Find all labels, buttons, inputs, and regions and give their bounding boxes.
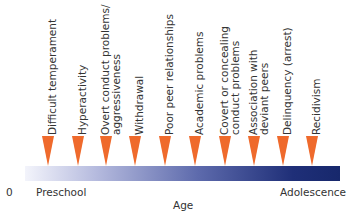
axis-origin-label: 0 [6,186,13,198]
event-label: Recidivism [311,79,322,135]
event-label: Difficult temperament [47,19,58,135]
event-label: Hyperactivity [77,65,88,135]
event-label: deviant peers [259,63,270,135]
event-arrow-icon [42,136,54,166]
event-arrow-icon [248,136,260,166]
axis-title: Age [173,199,193,211]
event-label: Withdrawal [134,76,145,135]
event-label: Delinquency (arrest) [282,27,293,135]
event-label: conduct problems [230,41,241,135]
event-arrow-icon [129,136,141,166]
axis-end-label: Adolescence [280,186,346,198]
event-arrow-icon [72,136,84,166]
event-arrow-icon [306,136,318,166]
event-arrow-icon [277,136,289,166]
event-label: Academic problems [194,31,205,135]
event-arrow-icon [219,136,231,166]
event-label: aggressiveness [111,54,122,135]
event-arrow-icon [100,136,112,166]
event-label: Poor peer relationships [164,14,175,135]
event-arrow-icon [189,136,201,166]
axis-start-label: Preschool [36,186,86,198]
age-gradient-bar [25,166,340,181]
event-arrow-icon [159,136,171,166]
